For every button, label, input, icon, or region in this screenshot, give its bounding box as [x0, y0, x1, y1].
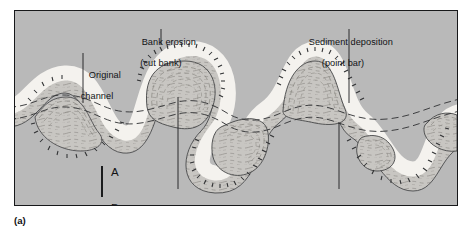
diagram-frame: Bank erosion (cut bank) Sediment deposit…	[14, 10, 458, 206]
label-bank-erosion-top-line1: Bank erosion	[142, 37, 196, 47]
figure-caption: (a)	[14, 215, 26, 226]
label-bank-erosion-bottom: Bank erosion (cut bank)	[301, 198, 405, 206]
figure-root: Bank erosion (cut bank) Sediment deposit…	[0, 0, 471, 239]
label-sediment-deposition-top-line2: (point bar)	[283, 58, 403, 69]
label-original-channel: Original channel	[59, 59, 135, 123]
label-sediment-deposition-top: Sediment deposition (point bar)	[283, 26, 403, 90]
label-sediment-deposition-top-line1: Sediment deposition	[309, 37, 393, 47]
cross-section-label-a: A	[111, 167, 119, 179]
cross-section-label-b: B	[111, 203, 119, 206]
label-sediment-deposition-bottom: Sediment deposition (point bar)	[115, 198, 243, 206]
label-original-channel-line1: Original	[89, 70, 121, 80]
label-original-channel-line2: channel	[59, 91, 135, 102]
